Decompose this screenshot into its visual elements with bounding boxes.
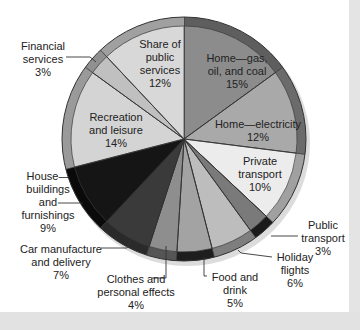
label-public-services: Share of public services 12% xyxy=(128,38,192,90)
label-car-manufacture: Car manufacture and delivery 7% xyxy=(14,243,108,282)
label-house-buildings: House— buildings and furnishings 9% xyxy=(18,170,78,235)
label-home-electricity: Home—electricity 12% xyxy=(208,118,308,144)
label-home-gas: Home—gas, oil, and coal 15% xyxy=(192,52,282,91)
label-private-transport: Private transport 10% xyxy=(225,155,295,194)
label-holiday-flights: Holiday flights 6% xyxy=(270,251,320,290)
label-food-drink: Food and drink 5% xyxy=(205,271,265,310)
label-recreation: Recreation and leisure 14% xyxy=(76,111,156,150)
label-financial: Financial services 3% xyxy=(14,40,72,79)
